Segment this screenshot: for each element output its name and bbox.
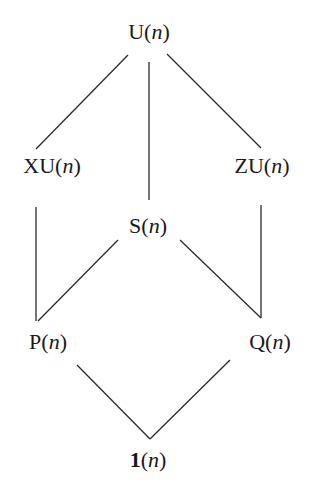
- node-s: S(n): [129, 215, 167, 237]
- node-u-arg: n: [151, 19, 162, 44]
- node-q: Q(n): [249, 331, 291, 353]
- node-xu-arg: n: [62, 153, 73, 178]
- node-one: 1(n): [130, 449, 167, 471]
- edge-s-q: [180, 240, 261, 318]
- node-q-arg: n: [272, 329, 283, 354]
- node-u: U(n): [128, 21, 170, 43]
- node-p-arg: n: [49, 329, 60, 354]
- node-one-prefix: 1: [130, 447, 141, 472]
- node-xu-prefix: XU: [23, 153, 55, 178]
- node-zu: ZU(n): [235, 155, 290, 177]
- node-zu-arg: n: [271, 153, 282, 178]
- edge-q-1: [150, 360, 230, 439]
- node-q-prefix: Q: [249, 329, 265, 354]
- diagram-edges: [0, 0, 325, 494]
- edge-u-zu: [167, 54, 261, 148]
- edge-u-xu: [36, 55, 128, 149]
- node-xu: XU(n): [23, 155, 80, 177]
- node-zu-prefix: ZU: [235, 153, 264, 178]
- edge-s-p: [38, 240, 118, 321]
- node-s-arg: n: [149, 213, 160, 238]
- node-one-arg: n: [148, 447, 159, 472]
- node-p-prefix: P: [29, 329, 41, 354]
- node-u-prefix: U: [128, 19, 144, 44]
- node-p: P(n): [29, 331, 67, 353]
- node-s-prefix: S: [129, 213, 141, 238]
- edge-p-1: [77, 365, 150, 439]
